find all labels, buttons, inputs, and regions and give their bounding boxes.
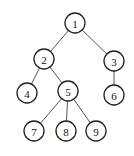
tree-edges [27, 23, 114, 131]
node-label: 2 [41, 54, 47, 66]
tree-node-4: 4 [17, 83, 37, 103]
node-label: 3 [111, 56, 117, 68]
node-label: 1 [72, 18, 78, 30]
node-label: 7 [31, 126, 37, 138]
node-label: 6 [111, 90, 117, 102]
node-label: 4 [24, 88, 30, 100]
node-label: 9 [93, 126, 99, 138]
tree-node-3: 3 [104, 51, 124, 71]
tree-node-7: 7 [24, 121, 44, 141]
tree-node-5: 5 [58, 81, 78, 101]
tree-node-8: 8 [56, 121, 76, 141]
tree-node-1: 1 [65, 13, 85, 33]
node-label: 5 [65, 86, 71, 98]
tree-node-2: 2 [34, 49, 54, 69]
tree-nodes: 123456789 [17, 13, 124, 141]
tree-node-9: 9 [86, 121, 106, 141]
tree-node-6: 6 [104, 85, 124, 105]
tree-diagram: 123456789 [0, 0, 134, 156]
node-label: 8 [63, 126, 69, 138]
